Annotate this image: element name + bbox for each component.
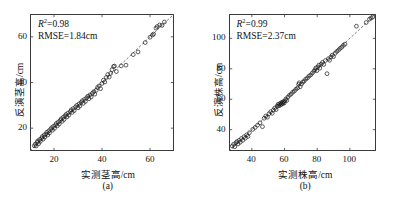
x-tick-label-b: 60	[269, 154, 299, 164]
x-tick-label-a: 40	[87, 154, 117, 164]
r2-value-b: R2=0.99	[237, 15, 296, 31]
figure-scatter-validation: R2=0.98 RMSE=1.84cm 实测茎高/cm 反演茎高/cm (a) …	[0, 0, 399, 201]
data-point	[152, 32, 156, 36]
data-point	[325, 72, 329, 76]
y-tick-label-a: 40	[5, 77, 27, 87]
data-point	[354, 24, 358, 28]
stats-annotation-a: R2=0.98 RMSE=1.84cm	[38, 15, 97, 42]
data-point	[364, 21, 368, 25]
data-point	[93, 92, 97, 96]
panel-b: R2=0.99 RMSE=2.37cm 实测株高/cm 反演株高/cm (b) …	[200, 0, 399, 201]
y-tick-label-a: 20	[5, 122, 27, 132]
y-tick-label-a: 60	[5, 31, 27, 41]
data-point	[136, 50, 140, 54]
x-tick-label-a: 20	[39, 154, 69, 164]
y-tick-label-b: 100	[204, 32, 226, 42]
y-axis-label-a: 反演茎高/cm	[12, 63, 26, 117]
x-axis-label-a: 实测茎高/cm	[8, 167, 208, 181]
y-tick-label-b: 60	[204, 93, 226, 103]
panel-a: R2=0.98 RMSE=1.84cm 实测茎高/cm 反演茎高/cm (a) …	[0, 0, 200, 201]
rmse-value-b: RMSE=2.37cm	[237, 31, 296, 43]
data-point	[124, 63, 128, 67]
data-point	[255, 123, 259, 127]
panel-caption-b: (b)	[206, 181, 399, 191]
x-tick-label-a: 60	[135, 154, 165, 164]
x-tick-label-b: 40	[236, 154, 266, 164]
r2-value-a: R2=0.98	[38, 15, 97, 31]
data-point	[115, 70, 119, 74]
data-point	[260, 125, 264, 129]
x-tick-label-b: 80	[302, 154, 332, 164]
y-tick-label-b: 80	[204, 63, 226, 73]
x-tick-label-b: 100	[334, 154, 364, 164]
y-tick-label-b: 40	[204, 124, 226, 134]
panel-caption-a: (a)	[8, 181, 208, 191]
rmse-value-a: RMSE=1.84cm	[38, 31, 97, 43]
data-point	[253, 126, 257, 130]
stats-annotation-b: R2=0.99 RMSE=2.37cm	[237, 15, 296, 42]
x-axis-label-b: 实测株高/cm	[206, 167, 399, 181]
